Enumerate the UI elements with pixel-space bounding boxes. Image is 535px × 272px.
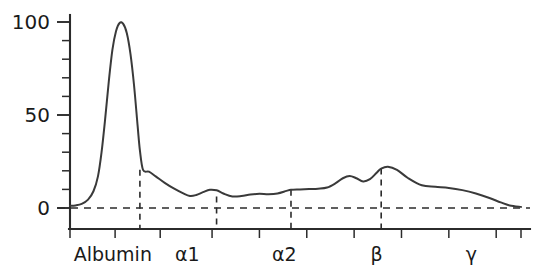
y-tick-label-0: 0 [37,196,50,220]
x-axis-region-labels: Albuminα1α2βγ [74,243,477,265]
x-region-label-alpha1: α1 [175,243,200,265]
densitometry-trace [70,22,521,207]
x-region-label-alpha2: α2 [272,243,297,265]
x-region-label-albumin: Albumin [74,243,152,265]
x-axis-group: Albuminα1α2βγ [69,229,530,265]
y-axis-tick-labels: 050100 [12,10,50,220]
electrophoresis-chart: 050100 Albuminα1α2βγ [0,0,535,272]
x-axis-ticks [70,229,521,238]
x-region-label-gamma: γ [466,243,477,265]
y-axis-minor-ticks [57,22,70,208]
y-tick-label-50: 50 [25,103,50,127]
plot-area [58,22,530,229]
chart-canvas: 050100 Albuminα1α2βγ [0,0,535,272]
y-tick-label-100: 100 [12,10,50,34]
x-region-label-beta: β [371,243,383,265]
y-axis-group: 050100 [12,10,70,230]
